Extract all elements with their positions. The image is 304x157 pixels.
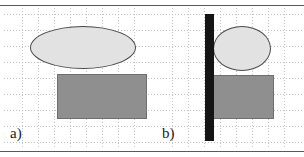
figure-canvas: a) b) [0,0,304,157]
grid-line-horizontal [154,126,302,127]
grid-line-horizontal [154,14,302,15]
frame-rule-bottom [0,151,304,152]
frame-rule-top [0,5,304,6]
panel-b [154,8,302,148]
panel-a-rectangle [57,74,147,119]
grid-line-horizontal [4,142,152,143]
grid-line-horizontal [4,14,152,15]
panel-a [4,8,152,148]
panel-b-rectangle [213,75,274,119]
grid-line-horizontal [4,126,152,127]
panel-b-vertical-bar [205,14,214,141]
panel-b-label: b) [162,126,175,141]
panel-a-ellipse [30,26,136,69]
panel-a-label: a) [10,126,22,141]
panel-b-ellipse [213,26,271,71]
grid-line-horizontal [154,142,302,143]
